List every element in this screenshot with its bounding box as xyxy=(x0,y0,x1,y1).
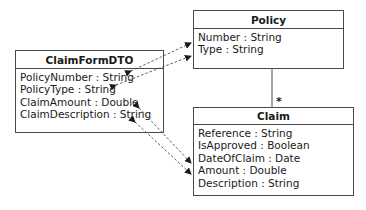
mapping-arrow-claimamount[interactable] xyxy=(139,108,191,163)
mapping-arrow-claimdescription[interactable] xyxy=(135,122,191,174)
mapping-arrow-policynumber[interactable] xyxy=(131,43,191,71)
connector-layer xyxy=(0,0,366,210)
multiplicity-label: * xyxy=(276,95,282,108)
